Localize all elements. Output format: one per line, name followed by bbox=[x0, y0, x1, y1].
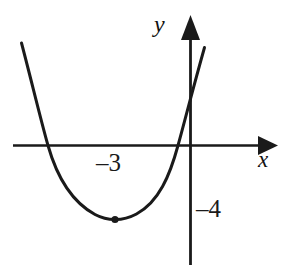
parabola-curve bbox=[22, 43, 205, 220]
y-axis-arrowhead-icon bbox=[181, 15, 200, 40]
x-intercept-label: –3 bbox=[96, 150, 121, 175]
coordinate-plane-drawing bbox=[0, 0, 287, 273]
x-axis-label: x bbox=[258, 148, 268, 171]
y-axis-label: y bbox=[154, 12, 165, 36]
vertex-point-marker bbox=[111, 216, 118, 223]
y-intercept-label: –4 bbox=[196, 196, 221, 221]
graph-figure: y x –3 –4 bbox=[0, 0, 287, 273]
